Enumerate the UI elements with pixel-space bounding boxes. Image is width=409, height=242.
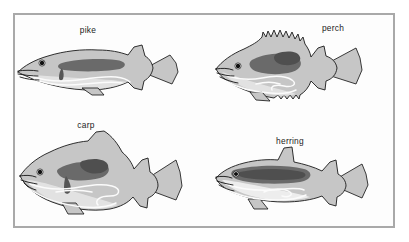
herring-label: herring — [276, 136, 304, 146]
specimen-herring: herring — [216, 136, 368, 209]
fish-illustration-canvas: pike perch — [0, 0, 409, 242]
pike-label: pike — [80, 25, 96, 35]
specimen-pike: pike — [18, 25, 178, 95]
specimen-carp: carp — [20, 120, 182, 214]
pike-eye-pupil — [40, 61, 44, 65]
perch-label: perch — [322, 23, 344, 33]
carp-label: carp — [77, 120, 94, 130]
figure-root: pike perch — [0, 0, 409, 242]
herring-eye-pupil — [234, 172, 238, 176]
specimen-perch: perch — [216, 23, 362, 101]
perch-eye-pupil — [236, 64, 240, 68]
carp-eye-pupil — [38, 170, 42, 174]
